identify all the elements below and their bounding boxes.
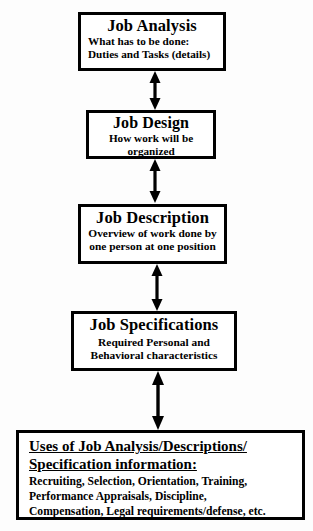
arrow-description-specifications [142, 264, 172, 312]
arrow-analysis-design [140, 71, 170, 111]
node-uses-line-3: Compensation, Legal requirements/defense… [29, 505, 296, 520]
diagram-canvas: Job Analysis What has to be done: Duties… [0, 0, 313, 531]
node-job-description-title: Job Description [85, 209, 220, 226]
node-job-specifications-title: Job Specifications [78, 316, 230, 333]
node-uses-heading-line-1: Uses of Job Analysis/Descriptions/ [29, 438, 296, 456]
node-job-specifications-line-1: Required Personal and [78, 336, 230, 349]
node-job-analysis: Job Analysis What has to be done: Duties… [78, 12, 226, 71]
node-job-analysis-title: Job Analysis [85, 17, 219, 34]
node-job-specifications-line-2: Behavioral characteristics [78, 349, 230, 362]
node-job-design-line-2: organized [93, 145, 209, 158]
node-job-analysis-line-2: Duties and Tasks (details) [85, 48, 219, 61]
node-job-design: Job Design How work will be organized [86, 110, 216, 159]
node-uses-of-job-analysis: Uses of Job Analysis/Descriptions/ Speci… [16, 430, 305, 520]
node-job-specifications: Job Specifications Required Personal and… [71, 311, 237, 371]
node-job-description-line-2: one person at one position [85, 240, 220, 253]
node-job-design-title: Job Design [93, 115, 209, 132]
node-job-description-line-1: Overview of work done by [85, 227, 220, 240]
arrow-design-description [140, 159, 170, 204]
node-job-analysis-line-1: What has to be done: [85, 35, 219, 48]
arrow-specifications-uses [143, 371, 173, 431]
node-job-design-line-1: How work will be [93, 132, 209, 145]
node-uses-line-2: Performance Appraisals, Discipline, [29, 490, 296, 505]
node-job-description: Job Description Overview of work done by… [78, 204, 227, 264]
node-uses-line-1: Recruiting, Selection, Orientation, Trai… [29, 475, 296, 490]
node-uses-heading-line-2: Specification information: [29, 456, 296, 474]
node-uses-body: Recruiting, Selection, Orientation, Trai… [29, 475, 296, 519]
